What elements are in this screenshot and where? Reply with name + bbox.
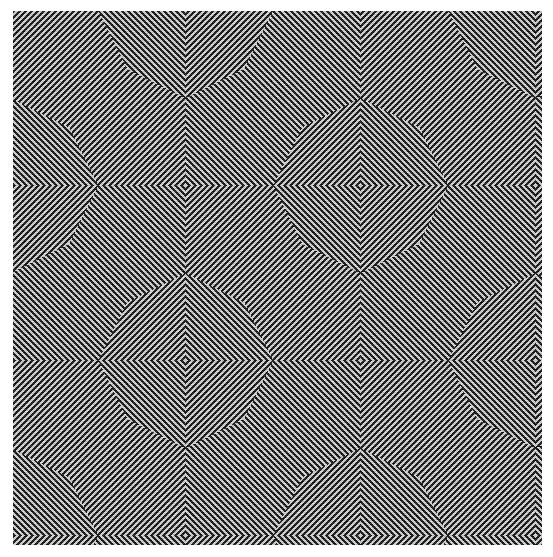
pattern-canvas	[13, 11, 542, 545]
op-art-pattern	[13, 11, 542, 545]
